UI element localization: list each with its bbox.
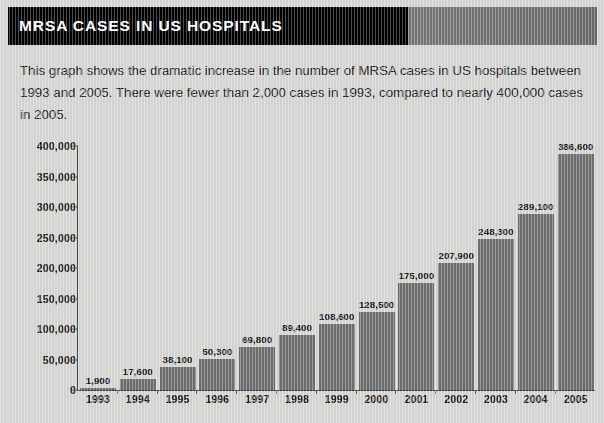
x-axis-label: 1997 [237, 394, 277, 405]
bar[interactable] [239, 347, 275, 390]
x-axis-label: 1999 [317, 394, 357, 405]
y-axis-tick-label: 350,000 [6, 171, 76, 183]
x-axis-tick-mark [395, 390, 396, 394]
bar-column[interactable]: 175,000 [396, 146, 436, 390]
y-axis-tick-label: 50,000 [6, 354, 76, 366]
x-axis-label: 2003 [476, 394, 516, 405]
bar[interactable] [438, 263, 474, 390]
x-axis-tick-mark [236, 390, 237, 394]
bar[interactable] [478, 239, 514, 390]
bar-value-label: 248,300 [473, 226, 519, 237]
bar-column[interactable]: 1,900 [78, 146, 118, 390]
x-axis-tick-mark [475, 390, 476, 394]
bar-value-label: 69,800 [234, 334, 280, 345]
x-axis-tick-mark [117, 390, 118, 394]
x-axis-label: 1998 [277, 394, 317, 405]
x-axis-label: 1995 [158, 394, 198, 405]
x-axis-label: 1996 [197, 394, 237, 405]
x-axis-tick-mark [515, 390, 516, 394]
x-axis-tick-mark [316, 390, 317, 394]
bar-column[interactable]: 50,300 [197, 146, 237, 390]
x-axis-tick-mark [356, 390, 357, 394]
x-axis-label: 2004 [516, 394, 556, 405]
bar[interactable] [518, 214, 554, 390]
bar-column[interactable]: 386,600 [556, 146, 596, 390]
y-axis-tick-label: 200,000 [6, 262, 76, 274]
bar[interactable] [279, 335, 315, 390]
bar-value-label: 386,600 [553, 141, 599, 152]
bar-column[interactable]: 207,900 [436, 146, 476, 390]
bar-column[interactable]: 38,100 [158, 146, 198, 390]
y-axis-tick-label: 300,000 [6, 201, 76, 213]
y-axis-tick-label: 100,000 [6, 323, 76, 335]
bar-value-label: 17,600 [115, 366, 161, 377]
bar-value-label: 175,000 [393, 270, 439, 281]
x-axis-tick-mark [276, 390, 277, 394]
x-axis-label: 2001 [396, 394, 436, 405]
x-axis-tick-mark [555, 390, 556, 394]
bar-column[interactable]: 108,600 [317, 146, 357, 390]
page-title: MRSA CASES IN US HOSPITALS [8, 17, 283, 35]
bar-column[interactable]: 17,600 [118, 146, 158, 390]
bar[interactable] [319, 324, 355, 390]
bar-column[interactable]: 69,800 [237, 146, 277, 390]
bar-column[interactable]: 289,100 [516, 146, 556, 390]
x-axis-line [77, 390, 595, 391]
y-axis-tick-label: 150,000 [6, 293, 76, 305]
bar-value-label: 289,100 [513, 201, 559, 212]
bar[interactable] [80, 388, 116, 390]
bar-value-label: 128,500 [354, 299, 400, 310]
bar-value-label: 89,400 [274, 322, 320, 333]
y-axis-tick-label: 0 [6, 384, 76, 396]
bar[interactable] [558, 154, 594, 390]
x-axis-label: 2002 [436, 394, 476, 405]
bar-column[interactable]: 128,500 [357, 146, 397, 390]
x-axis-label: 2000 [357, 394, 397, 405]
description-text: This graph shows the dramatic increase i… [20, 60, 590, 126]
x-axis-tick-mark [196, 390, 197, 394]
x-axis-label: 1993 [78, 394, 118, 405]
bar-chart: 050,000100,000150,000200,000250,000300,0… [0, 138, 604, 413]
bar[interactable] [199, 359, 235, 390]
bar-value-label: 50,300 [194, 346, 240, 357]
bar[interactable] [359, 312, 395, 390]
bar-column[interactable]: 248,300 [476, 146, 516, 390]
y-axis-tick-label: 250,000 [6, 232, 76, 244]
bar-value-label: 207,900 [433, 250, 479, 261]
x-axis-label: 2005 [556, 394, 596, 405]
title-block: MRSA CASES IN US HOSPITALS [8, 7, 408, 45]
x-axis-tick-mark [157, 390, 158, 394]
x-axis-label: 1994 [118, 394, 158, 405]
bar[interactable] [120, 379, 156, 390]
infographic-page: MRSA CASES IN US HOSPITALS This graph sh… [0, 0, 604, 423]
x-axis-tick-mark [435, 390, 436, 394]
bar[interactable] [398, 283, 434, 390]
bar-value-label: 108,600 [314, 311, 360, 322]
bar[interactable] [160, 367, 196, 390]
bar-column[interactable]: 89,400 [277, 146, 317, 390]
y-axis-tick-label: 400,000 [6, 140, 76, 152]
